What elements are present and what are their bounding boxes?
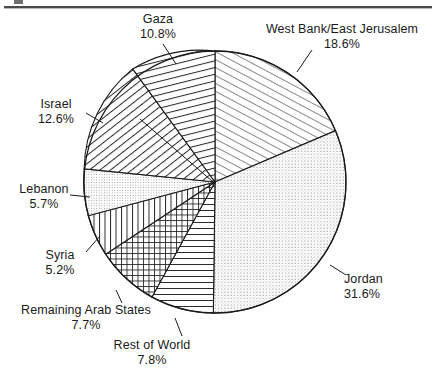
slice-label-lebanon: Lebanon 5.7% xyxy=(2,182,86,211)
slice-label-remaining-arab-states: Remaining Arab States 7.7% xyxy=(2,303,170,332)
slice-label-remaining-arab-states-percent: 7.7% xyxy=(2,318,170,333)
slice-label-remaining-arab-states-name: Remaining Arab States xyxy=(2,303,170,318)
slice-label-westbank-percent: 18.6% xyxy=(252,37,432,52)
slice-label-gaza: Gaza 10.8% xyxy=(104,12,212,41)
slice-label-syria-percent: 5.2% xyxy=(22,263,98,278)
slice-label-westbank-name: West Bank/East Jerusalem xyxy=(252,22,432,37)
slice-label-jordan-percent: 31.6% xyxy=(344,287,432,302)
slice-label-rest-of-world-name: Rest of World xyxy=(84,338,220,353)
slice-label-rest-of-world: Rest of World 7.8% xyxy=(84,338,220,367)
slice-label-israel-percent: 12.6% xyxy=(16,112,96,127)
slice-label-gaza-name: Gaza xyxy=(104,12,212,27)
slice-label-israel: Israel 12.6% xyxy=(16,97,96,126)
slice-label-westbank: West Bank/East Jerusalem 18.6% xyxy=(252,22,432,51)
slice-label-gaza-percent: 10.8% xyxy=(104,27,212,42)
slice-label-syria: Syria 5.2% xyxy=(22,248,98,277)
leader-restworld xyxy=(175,318,182,336)
slice-label-lebanon-percent: 5.7% xyxy=(2,197,86,212)
slice-label-syria-name: Syria xyxy=(22,248,98,263)
slice-label-jordan-name: Jordan xyxy=(344,272,432,287)
leader-remaining xyxy=(116,290,122,303)
slice-label-jordan: Jordan 31.6% xyxy=(344,272,432,301)
slice-label-israel-name: Israel xyxy=(16,97,96,112)
slice-label-rest-of-world-percent: 7.8% xyxy=(84,353,220,368)
leader-westbank xyxy=(297,50,312,72)
pie-slices xyxy=(84,50,346,313)
pie-chart-figure: Gaza 10.8% West Bank/East Jerusalem 18.6… xyxy=(0,0,435,384)
slice-label-lebanon-name: Lebanon xyxy=(2,182,86,197)
